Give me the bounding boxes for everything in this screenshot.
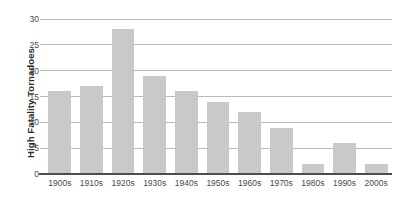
x-axis-tick-label: 1970s (265, 178, 297, 188)
bar (333, 143, 356, 174)
bar-chart: High Fatality Tornadoes 051015202530 190… (0, 0, 407, 206)
y-axis-tick-label: 20 (30, 66, 39, 76)
y-axis-tick-label: 25 (30, 40, 39, 50)
x-axis-tick-label: 1950s (202, 178, 234, 188)
bar (48, 91, 71, 174)
x-axis-tick-label: 1990s (329, 178, 361, 188)
bar (270, 128, 293, 175)
bar (112, 29, 135, 174)
bar (207, 102, 230, 174)
bar-series (44, 19, 392, 174)
x-axis-tick-label: 1930s (139, 178, 171, 188)
x-axis-tick-label: 1900s (44, 178, 76, 188)
x-axis-tick-label: 1980s (297, 178, 329, 188)
bar (80, 86, 103, 174)
x-axis-tick-labels: 1900s1910s1920s1930s1940s1950s1960s1970s… (44, 178, 392, 194)
bar (143, 76, 166, 174)
bar (238, 112, 261, 174)
bar (175, 91, 198, 174)
x-axis-tick-label: 1920s (107, 178, 139, 188)
y-axis-tick-label: 30 (30, 14, 39, 24)
plot-area: 051015202530 (44, 19, 392, 174)
x-axis-line (39, 173, 392, 175)
x-axis-tick-label: 1940s (171, 178, 203, 188)
y-axis-tick-label: 10 (30, 117, 39, 127)
y-axis-tick-label: 15 (30, 92, 39, 102)
x-axis-tick-label: 2000s (360, 178, 392, 188)
x-axis-tick-label: 1910s (76, 178, 108, 188)
y-axis-tick-label: 5 (34, 143, 39, 153)
x-axis-tick-label: 1960s (234, 178, 266, 188)
